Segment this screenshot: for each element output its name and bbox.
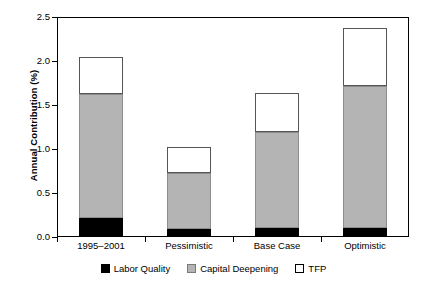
x-axis-category-label: Optimistic [344, 240, 386, 251]
y-tick-label: 1.0 [37, 143, 50, 155]
bars-layer [57, 17, 409, 237]
bar-segment-labor-quality [343, 228, 387, 237]
bar-segment-labor-quality [167, 229, 211, 237]
bar-segment-labor-quality [255, 228, 299, 237]
x-axis-category-label: 1995–2001 [77, 240, 125, 251]
white-square-icon [295, 264, 304, 273]
bar-group [79, 17, 123, 237]
black-square-icon [101, 264, 110, 273]
bar-segment-capital-deepening [167, 173, 211, 229]
gray-square-icon [187, 264, 196, 273]
bar-segment-tfp [167, 147, 211, 173]
legend-item-label: TFP [308, 263, 326, 274]
bar-segment-capital-deepening [343, 86, 387, 229]
y-tick-label: 2.0 [37, 55, 50, 67]
x-axis-labels: 1995–2001PessimisticBase CaseOptimistic [57, 240, 409, 258]
bar-segment-labor-quality [79, 218, 123, 237]
legend-item[interactable]: TFP [295, 263, 326, 274]
bar-segment-capital-deepening [255, 132, 299, 228]
x-axis-category-label: Pessimistic [165, 240, 213, 251]
legend-item-label: Labor Quality [114, 263, 171, 274]
chart-legend: Labor QualityCapital DeepeningTFP [0, 263, 427, 274]
bar-segment-capital-deepening [79, 94, 123, 218]
stacked-bar-chart: Annual Contribution (%) 2.52.01.51.00.50… [0, 0, 427, 288]
y-tick-label: 1.5 [37, 99, 50, 111]
bar-group [255, 17, 299, 237]
bar-segment-tfp [255, 93, 299, 133]
bar-group [167, 17, 211, 237]
y-tick-label: 2.5 [37, 11, 50, 23]
y-tick-label: 0.5 [37, 187, 50, 199]
x-axis-category-label: Base Case [254, 240, 300, 251]
y-tick-label: 0.0 [37, 231, 50, 243]
legend-item-label: Capital Deepening [200, 263, 278, 274]
y-axis-ticks: 2.52.01.51.00.50.0 [0, 0, 57, 254]
bar-segment-tfp [79, 57, 123, 94]
bar-group [343, 17, 387, 237]
legend-item[interactable]: Labor Quality [101, 263, 171, 274]
bar-segment-tfp [343, 28, 387, 86]
legend-item[interactable]: Capital Deepening [187, 263, 278, 274]
